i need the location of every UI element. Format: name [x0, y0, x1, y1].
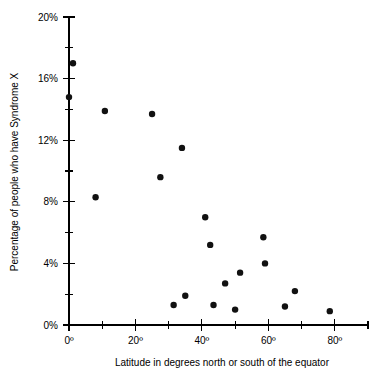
data-point: [222, 280, 228, 286]
data-point: [282, 303, 288, 309]
data-point: [292, 288, 298, 294]
y-axis-tick-label: 16%: [38, 73, 58, 84]
data-point: [262, 260, 268, 266]
data-point: [232, 306, 238, 312]
data-point: [260, 234, 266, 240]
x-axis-tick-label: 60º: [261, 335, 276, 346]
data-point: [202, 214, 208, 220]
data-point: [170, 302, 176, 308]
x-axis-tick-label: 40º: [194, 335, 209, 346]
y-axis-tick-label: 4%: [44, 258, 59, 269]
x-axis: 0º20º40º60º80º: [64, 319, 368, 346]
data-point: [149, 111, 155, 117]
data-point: [66, 94, 72, 100]
data-point: [207, 242, 213, 248]
data-points-layer: [66, 60, 333, 314]
y-axis-tick-label: 8%: [44, 196, 59, 207]
data-point: [237, 269, 243, 275]
y-axis-title: Percentage of people who have Syndrome X: [9, 72, 20, 271]
scatter-plot-canvas: 0%4%8%12%16%20% 0º20º40º60º80º Latitude …: [0, 0, 384, 375]
data-point: [210, 302, 216, 308]
x-axis-title: Latitude in degrees north or south of th…: [115, 357, 330, 368]
y-axis-tick-label: 0%: [44, 320, 59, 331]
data-point: [179, 145, 185, 151]
data-point: [70, 60, 76, 66]
data-point: [92, 194, 98, 200]
data-point: [182, 293, 188, 299]
y-axis-tick-label: 20%: [38, 12, 58, 23]
data-point: [102, 108, 108, 114]
x-axis-tick-label: 80º: [327, 335, 342, 346]
data-point: [327, 308, 333, 314]
data-point: [157, 174, 163, 180]
y-axis: 0%4%8%12%16%20%: [38, 12, 75, 331]
scatter-plot-figure: 0%4%8%12%16%20% 0º20º40º60º80º Latitude …: [0, 0, 384, 375]
x-axis-tick-label: 0º: [64, 335, 74, 346]
x-axis-tick-label: 20º: [128, 335, 143, 346]
y-axis-tick-label: 12%: [38, 135, 58, 146]
